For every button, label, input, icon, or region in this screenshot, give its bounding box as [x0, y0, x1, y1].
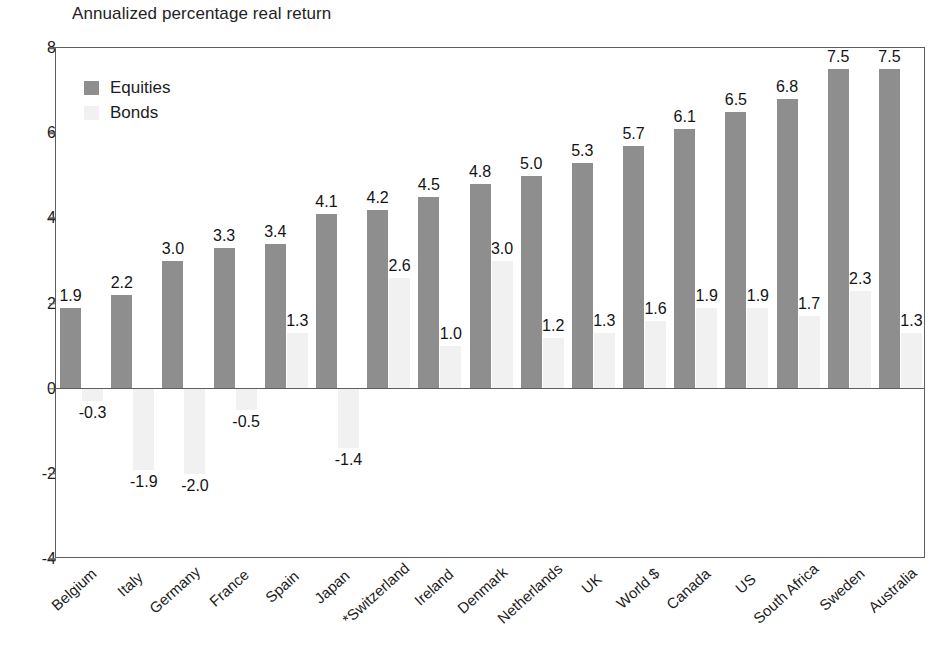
x-axis-label-text: South Africa: [750, 560, 821, 627]
bar-bonds: [645, 321, 666, 389]
bar-value-label: 6.8: [776, 78, 798, 96]
bar-bonds: [389, 278, 410, 389]
x-axis-label-us: US: [732, 570, 759, 597]
x-axis-label-text: Australia: [865, 564, 920, 616]
plot-frame: 86420-2-4 1.9-0.32.2-1.93.0-2.03.3-0.53.…: [55, 47, 925, 558]
x-axis-label-text: Ireland: [411, 566, 456, 609]
bar-equities: [623, 146, 644, 389]
bar-bonds: [338, 389, 359, 449]
bar-value-label: 1.0: [440, 325, 462, 343]
bar-value-label: 6.5: [725, 91, 747, 109]
bar-value-label: -1.4: [335, 451, 363, 469]
bar-value-label: 4.2: [367, 189, 389, 207]
x-axis-label-text: Italy: [114, 569, 146, 600]
bar-value-label: 3.0: [491, 240, 513, 258]
bar-equities: [674, 129, 695, 389]
zero-baseline: [56, 388, 924, 390]
legend-item-bonds: Bonds: [84, 100, 170, 125]
x-axis-label-text: Canada: [663, 565, 713, 613]
legend-item-label: Bonds: [110, 103, 158, 123]
x-axis-label-france: France: [206, 566, 252, 610]
bar-equities: [214, 248, 235, 389]
bar-equities: [162, 261, 183, 389]
bar-value-label: 5.7: [622, 125, 644, 143]
plot-area: 86420-2-4 1.9-0.32.2-1.93.0-2.03.3-0.53.…: [56, 48, 924, 557]
bar-equities: [828, 69, 849, 388]
legend-item-label: Equities: [110, 78, 170, 98]
equities-swatch-icon: [84, 81, 99, 95]
chart-title: Annualized percentage real return: [72, 4, 331, 24]
bar-value-label: 1.2: [542, 317, 564, 335]
bar-value-label: 7.5: [878, 48, 900, 66]
bar-value-label: 1.9: [696, 287, 718, 305]
x-axis-label-germany: Germany: [146, 563, 203, 617]
bar-value-label: 5.3: [571, 142, 593, 160]
bar-value-label: 1.9: [747, 287, 769, 305]
bar-value-label: 3.3: [213, 227, 235, 245]
bar-bonds: [287, 333, 308, 388]
bar-equities: [111, 295, 132, 389]
bar-equities: [521, 176, 542, 389]
x-axis-label-text: France: [206, 566, 252, 610]
x-axis-category-labels: BelgiumItalyGermanyFranceSpainJapan*Swit…: [55, 560, 925, 666]
bar-value-label: 6.1: [674, 108, 696, 126]
bar-value-label: 2.3: [849, 270, 871, 288]
x-axis-label-text: Belgium: [48, 564, 100, 613]
bar-equities: [879, 69, 900, 388]
bar-equities: [418, 197, 439, 389]
bar-value-label: 1.3: [593, 312, 615, 330]
x-axis-label-spain: Spain: [262, 567, 302, 605]
bar-value-label: 7.5: [827, 48, 849, 66]
bar-bonds: [850, 291, 871, 389]
bar-value-label: -1.9: [130, 473, 158, 491]
bar-bonds: [747, 308, 768, 389]
y-axis-tick-mark: [49, 132, 56, 134]
x-axis-label-text: *Switzerland: [339, 559, 412, 627]
bar-equities: [265, 244, 286, 389]
y-axis-tick-mark: [49, 388, 56, 390]
x-axis-label-italy: Italy: [114, 569, 146, 600]
x-axis-label-japan: Japan: [311, 567, 353, 607]
bar-bonds: [133, 389, 154, 470]
x-axis-label-text: Spain: [262, 567, 302, 605]
bar-equities: [725, 112, 746, 389]
x-axis-label-belgium: Belgium: [48, 564, 100, 613]
bar-value-label: -2.0: [181, 477, 209, 495]
x-axis-label-text: World $: [613, 565, 663, 612]
bar-value-label: -0.5: [232, 413, 260, 431]
bar-value-label: 5.0: [520, 155, 542, 173]
legend-item-equities: Equities: [84, 75, 170, 100]
bar-bonds: [594, 333, 615, 388]
y-axis-tick-mark: [49, 47, 56, 49]
x-axis-label--switzerland: *Switzerland: [339, 559, 412, 627]
x-axis-label-ireland: Ireland: [411, 566, 456, 609]
bar-bonds: [696, 308, 717, 389]
bar-value-label: 1.6: [644, 300, 666, 318]
bar-value-label: 1.3: [900, 312, 922, 330]
bar-bonds: [184, 389, 205, 474]
bonds-swatch-icon: [84, 106, 99, 120]
x-axis-label-text: Japan: [311, 567, 353, 607]
y-axis-tick-mark: [49, 218, 56, 220]
x-axis-label-sweden: Sweden: [816, 564, 868, 613]
x-axis-label-text: Sweden: [816, 564, 868, 613]
y-axis-tick-mark: [49, 473, 56, 475]
bar-value-label: 1.9: [59, 287, 81, 305]
bar-equities: [470, 184, 491, 388]
bar-equities: [367, 210, 388, 389]
bar-value-label: 4.1: [315, 193, 337, 211]
x-axis-label-text: Germany: [146, 563, 203, 617]
bar-bonds: [799, 316, 820, 388]
bar-value-label: 3.0: [162, 240, 184, 258]
x-axis-label-text: US: [732, 570, 759, 597]
bar-bonds: [236, 389, 257, 410]
bar-bonds: [543, 338, 564, 389]
x-axis-label-world-: World $: [613, 565, 663, 612]
x-axis-label-australia: Australia: [865, 564, 920, 616]
x-axis-label-text: UK: [578, 570, 605, 597]
bar-value-label: 2.2: [111, 274, 133, 292]
bar-bonds: [440, 346, 461, 389]
bar-equities: [316, 214, 337, 389]
bar-value-label: -0.3: [79, 404, 107, 422]
y-axis-tick-mark: [49, 303, 56, 305]
